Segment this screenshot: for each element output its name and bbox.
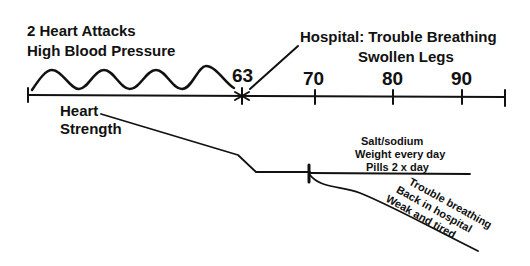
managed-label-line-3: Pills 2 x day xyxy=(366,161,430,173)
heart-strength-label-line-1: Heart xyxy=(60,102,98,119)
tick-label-70: 70 xyxy=(303,68,324,89)
history-label-line-2: High Blood Pressure xyxy=(27,42,175,59)
hospital-label-line-2: Swollen Legs xyxy=(358,48,454,65)
heart-strength-label-line-2: Strength xyxy=(60,120,122,137)
age-63-label: 63 xyxy=(232,65,253,86)
managed-label-line-1: Salt/sodium xyxy=(361,135,424,147)
timeline-axis xyxy=(28,95,505,97)
managed-branch-line xyxy=(310,173,470,174)
hospital-label-line-1: Hospital: Trouble Breathing xyxy=(300,28,497,45)
heart-strength-line xyxy=(101,114,310,172)
tick-label-80: 80 xyxy=(382,68,403,89)
tick-label-90: 90 xyxy=(451,68,472,89)
history-label-line-1: 2 Heart Attacks xyxy=(27,22,136,39)
managed-label-line-2: Weight every day xyxy=(355,148,446,160)
blood-pressure-wave xyxy=(32,66,234,90)
heart-failure-timeline-diagram: 2 Heart Attacks High Blood Pressure 63 H… xyxy=(0,0,530,266)
hospital-callout-line xyxy=(250,46,298,89)
